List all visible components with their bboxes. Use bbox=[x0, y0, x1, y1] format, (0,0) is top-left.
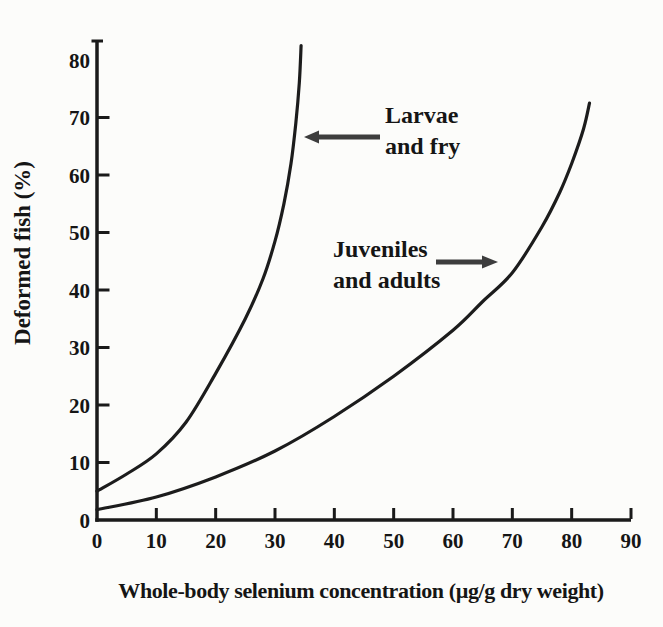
y-tick-label: 40 bbox=[69, 279, 90, 303]
x-tick-label: 10 bbox=[146, 529, 167, 553]
y-tick-label: 20 bbox=[69, 394, 90, 418]
larvae-and-fry-annotation: Larvae and fry bbox=[385, 100, 460, 162]
larvae-and-fry-curve bbox=[97, 46, 301, 492]
x-axis-title: Whole-body selenium concentration (µg/g … bbox=[118, 578, 603, 604]
juveniles-and-adults-annotation: Juveniles and adults bbox=[333, 234, 440, 296]
y-tick-label: 0 bbox=[80, 509, 91, 533]
y-tick-label: 10 bbox=[69, 451, 90, 475]
chart-canvas: 010203040506070809001020304050607080 bbox=[0, 0, 663, 627]
larvae-and-fry-arrow-icon bbox=[304, 131, 319, 144]
y-tick-label: 70 bbox=[69, 106, 90, 130]
juveniles-and-adults-arrow-icon bbox=[482, 256, 498, 269]
selenium-deformity-chart: 010203040506070809001020304050607080 Def… bbox=[0, 0, 663, 627]
x-tick-label: 20 bbox=[205, 529, 226, 553]
y-tick-label: 60 bbox=[69, 164, 90, 188]
juveniles-and-adults-curve bbox=[97, 103, 590, 510]
x-tick-label: 70 bbox=[502, 529, 523, 553]
x-tick-label: 0 bbox=[92, 529, 103, 553]
x-tick-label: 60 bbox=[443, 529, 464, 553]
x-tick-label: 80 bbox=[561, 529, 582, 553]
x-tick-label: 90 bbox=[621, 529, 642, 553]
y-tick-label: 80 bbox=[69, 49, 90, 73]
x-tick-label: 30 bbox=[265, 529, 286, 553]
x-tick-label: 40 bbox=[324, 529, 345, 553]
y-axis-title: Deformed fish (%) bbox=[10, 161, 36, 345]
y-tick-label: 50 bbox=[69, 221, 90, 245]
y-tick-label: 30 bbox=[69, 336, 90, 360]
x-tick-label: 50 bbox=[383, 529, 404, 553]
